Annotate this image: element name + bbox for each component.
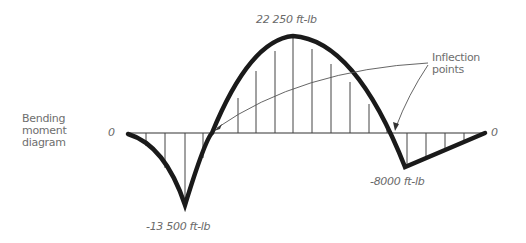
leader-line-left [217,63,428,128]
diagram-graphic [0,0,526,243]
zero-right-label: 0 [491,127,498,139]
max-positive-label: 22 250 ft-lb [256,14,317,26]
zero-left-label: 0 [108,127,115,139]
annotation-line2: points [432,64,464,76]
bending-moment-diagram: Bending moment diagram 0 0 22 250 ft-lb … [0,0,526,243]
local-negative-label: -8000 ft-lb [370,176,424,188]
min-negative-label: -13 500 ft-lb [146,221,210,233]
arrowhead-right-icon [393,122,399,131]
leader-line-right [396,65,428,127]
side-label-line3: diagram [22,137,66,149]
